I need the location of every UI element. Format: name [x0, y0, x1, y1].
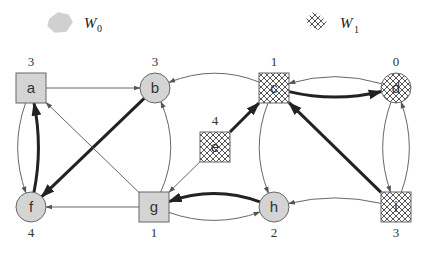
node-b-rank: 3 — [152, 54, 159, 69]
node-i-rank: 3 — [393, 225, 400, 240]
legend-label-w1: W — [340, 15, 354, 31]
node-i: i3 — [381, 192, 411, 240]
legend-label-w0: W — [84, 15, 98, 31]
node-c: c1 — [259, 54, 289, 103]
edge-e-to-g — [169, 162, 200, 192]
node-f-rank: 4 — [28, 225, 35, 240]
legend-item-w0: W 0 — [48, 13, 102, 34]
node-i-label: i — [394, 198, 397, 215]
legend-sub-w1: 1 — [354, 24, 359, 35]
node-e-label: e — [211, 138, 219, 155]
node-e-rank: 4 — [212, 113, 219, 128]
node-c-rank: 1 — [271, 54, 278, 69]
node-h-label: h — [270, 198, 278, 215]
node-g-rank: 1 — [151, 225, 158, 240]
node-a: a3 — [16, 54, 46, 103]
node-d-label: d — [392, 79, 400, 96]
node-g-label: g — [150, 198, 158, 215]
node-b: b3 — [140, 54, 170, 103]
node-c-label: c — [270, 79, 278, 96]
legend-item-w1: W 1 — [305, 12, 359, 35]
node-h-rank: 2 — [271, 225, 278, 240]
node-f: f4 — [16, 192, 46, 240]
node-a-label: a — [27, 79, 36, 96]
edge-g-to-b — [161, 102, 171, 192]
node-d: d0 — [381, 54, 411, 103]
gray-blob-icon — [48, 13, 72, 32]
legend-sub-w0: 0 — [97, 23, 102, 34]
nodes: a3b3c1d0e4f4g1h2i3 — [16, 54, 411, 240]
game-graph-diagram: W 0 W 1 a3b3c1d0e4f4g1h2i3 — [0, 0, 425, 258]
edge-f-to-a — [34, 103, 38, 192]
edge-h-to-g — [169, 194, 260, 202]
edge-c-to-h — [259, 103, 268, 193]
node-a-rank: 3 — [28, 54, 35, 69]
edge-g-to-h — [169, 212, 260, 220]
edge-e-to-c — [230, 103, 259, 132]
node-h: h2 — [259, 192, 289, 240]
node-d-rank: 0 — [393, 54, 400, 69]
edge-c-to-b — [169, 73, 259, 82]
edge-i-to-c — [289, 103, 381, 193]
edge-c-to-d — [289, 92, 381, 98]
edge-i-to-d — [401, 102, 409, 192]
edge-d-to-c — [289, 77, 382, 84]
node-e: e4 — [200, 113, 230, 162]
node-b-label: b — [151, 79, 159, 96]
legend: W 0 W 1 — [48, 12, 359, 35]
hatch-blob-icon — [305, 12, 327, 30]
node-g: g1 — [139, 192, 169, 240]
edge-a-to-f — [18, 103, 26, 193]
edge-i-to-h — [289, 198, 381, 204]
edge-d-to-i — [383, 102, 391, 192]
